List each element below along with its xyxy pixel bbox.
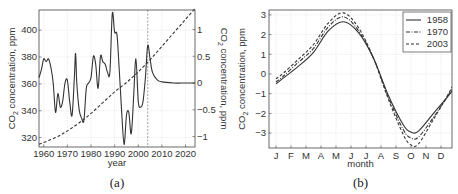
panel-b-chart: JFMAMJJASOND−3−2−10123195819702003monthC… (236, 9, 456, 190)
y-tick-label: 2 (261, 29, 266, 40)
x-axis-label: year (108, 157, 126, 168)
x-tick-label: 2010 (151, 148, 172, 159)
x-tick-label: A (378, 150, 385, 161)
y-axis-label: CO2 concentration, ppm (6, 28, 19, 130)
y-tick-label: 400 (21, 24, 37, 35)
x-tick-label: 1970 (57, 148, 78, 159)
y-tick-label: 360 (21, 78, 37, 89)
legend-entry: 1970 (427, 26, 448, 37)
caption-a: (a) (110, 175, 124, 190)
x-tick-label: A (318, 150, 325, 161)
y-tick-label: 1 (261, 49, 266, 60)
y2-tick-label: 0 (197, 77, 202, 88)
x-tick-label: N (423, 150, 430, 161)
y-axis-label: CO2 concentration, ppm (236, 28, 249, 130)
x-tick-label: O (407, 150, 414, 161)
figure: 1960197019801990200020102020320340360380… (0, 0, 458, 194)
y-tick-label: 380 (21, 51, 37, 62)
x-tick-label: J (274, 150, 279, 161)
y-tick-label: 340 (21, 105, 37, 116)
x-axis-label: month (347, 158, 373, 169)
y2-tick-label: 0.5 (197, 51, 210, 62)
y2-tick-label: −0.5 (197, 104, 216, 115)
y2-tick-label: 1 (197, 24, 202, 35)
y-tick-label: −3 (255, 127, 266, 138)
x-tick-label: 1980 (80, 148, 101, 159)
trend-line (39, 9, 195, 145)
x-tick-label: F (288, 150, 294, 161)
panel-a-chart: 1960197019801990200020102020320340360380… (6, 9, 230, 190)
y-tick-label: −1 (255, 88, 266, 99)
x-tick-label: 2000 (128, 148, 149, 159)
x-tick-label: M (302, 150, 310, 161)
x-tick-label: M (332, 150, 340, 161)
x-tick-label: 2020 (175, 148, 196, 159)
caption-b: (b) (353, 175, 368, 190)
y-tick-label: 0 (261, 68, 266, 79)
residual-line (39, 12, 195, 144)
legend: 195819702003 (403, 12, 451, 52)
legend-entry: 2003 (427, 38, 448, 49)
x-tick-label: 1960 (33, 148, 54, 159)
plot-frame (39, 10, 195, 147)
x-tick-label: S (393, 150, 399, 161)
y2-tick-label: −1 (197, 131, 208, 142)
y2-axis-label: CO2 concentration, ppm (217, 28, 230, 130)
y-tick-label: 320 (21, 132, 37, 143)
y-tick-label: 3 (261, 9, 266, 20)
x-tick-label: D (438, 150, 445, 161)
legend-entry: 1958 (427, 14, 448, 25)
y-tick-label: −2 (255, 108, 266, 119)
